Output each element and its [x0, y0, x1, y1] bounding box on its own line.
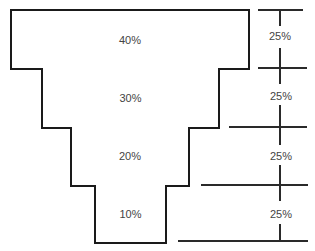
scale-label-1: 25% — [260, 30, 300, 42]
scale-line — [279, 224, 281, 241]
scale-tick-1 — [258, 9, 303, 11]
scale-label-4: 25% — [261, 208, 301, 220]
scale-line — [279, 10, 281, 26]
tier-3-box: 20% — [70, 127, 190, 187]
scale-tick-2 — [258, 67, 307, 69]
scale-tick-4 — [201, 184, 308, 186]
tier-1-label: 40% — [119, 34, 141, 46]
tier-2-label: 30% — [119, 92, 141, 104]
tier-4-label: 10% — [119, 208, 141, 220]
scale-label-2: 25% — [261, 90, 301, 102]
scale-tick-5 — [178, 240, 308, 242]
tier-3-label: 20% — [119, 150, 141, 162]
scale-line — [279, 105, 281, 145]
tier-4-box: 10% — [94, 185, 167, 244]
scale-label-3: 25% — [261, 150, 301, 162]
tier-2-box: 30% — [41, 68, 220, 129]
scale-tick-3 — [229, 126, 307, 128]
scale-line — [279, 48, 281, 84]
tier-1-box: 40% — [10, 9, 250, 70]
scale-line — [279, 165, 281, 201]
